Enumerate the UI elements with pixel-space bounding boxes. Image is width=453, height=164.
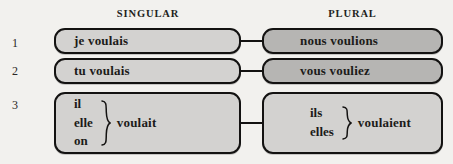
connector-line-row-2	[241, 70, 262, 72]
verb-form-text: vous vouliez	[264, 63, 370, 79]
pronoun-item: il	[74, 95, 93, 114]
conjugation-chart: SINGULAR PLURAL 1 2 3 je voulais nous vo…	[0, 0, 453, 164]
verb-box-singular-3[interactable]: il elle on voulait	[54, 92, 241, 154]
verb-box-plural-2[interactable]: vous vouliez	[262, 58, 443, 84]
pronoun-stack: ils elles	[310, 104, 334, 142]
verb-form-text: voulait	[117, 115, 157, 131]
verb-form-text: je voulais	[56, 33, 128, 49]
row-number-3: 3	[6, 98, 24, 113]
pronoun-item: elles	[310, 123, 334, 142]
connector-line-row-1	[241, 40, 262, 42]
row-number-2: 2	[6, 64, 24, 79]
curly-brace-icon	[341, 106, 352, 140]
verb-form-text: tu voulais	[56, 63, 130, 79]
pronoun-item: elle	[74, 114, 93, 133]
pronoun-item: ils	[310, 104, 334, 123]
column-header-singular: SINGULAR	[55, 8, 241, 19]
verb-form-text: voulaient	[358, 115, 411, 131]
pronoun-verb-group: ils elles voulaient	[264, 104, 411, 142]
column-header-plural: PLURAL	[262, 8, 443, 19]
pronoun-verb-group: il elle on voulait	[56, 95, 156, 152]
verb-box-plural-1[interactable]: nous voulions	[262, 28, 443, 54]
curly-brace-icon	[100, 100, 111, 146]
pronoun-item: on	[74, 132, 93, 151]
verb-box-singular-2[interactable]: tu voulais	[54, 58, 241, 84]
connector-line-row-3	[241, 122, 262, 124]
verb-box-plural-3[interactable]: ils elles voulaient	[262, 92, 443, 154]
verb-box-singular-1[interactable]: je voulais	[54, 28, 241, 54]
verb-form-text: nous voulions	[264, 33, 378, 49]
row-number-1: 1	[6, 36, 24, 51]
pronoun-stack: il elle on	[74, 95, 93, 152]
